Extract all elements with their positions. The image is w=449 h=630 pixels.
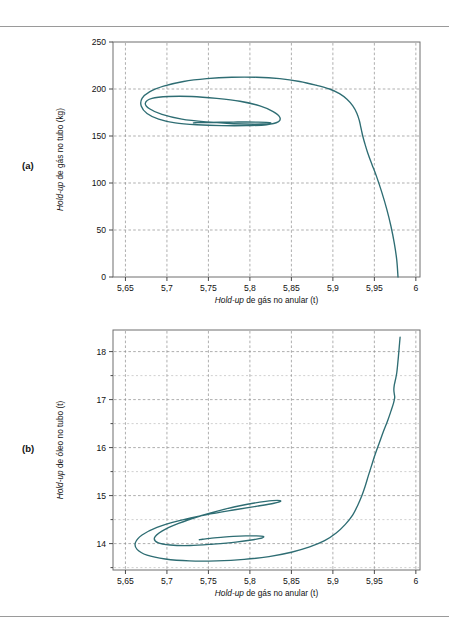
data-series-line (135, 337, 400, 561)
y-axis-title-italic: Hold-up (55, 470, 65, 499)
x-tick-label: 5,65 (117, 283, 134, 293)
y-tick-label: 14 (96, 539, 106, 549)
y-tick-label: 150 (92, 131, 107, 141)
x-tick-label: 5,85 (283, 576, 300, 586)
x-tick-label: 6 (413, 576, 418, 586)
data-series-line (141, 77, 398, 277)
y-tick-label: 50 (96, 225, 106, 235)
y-tick-label: 250 (92, 37, 107, 47)
x-tick-label: 5,95 (366, 283, 383, 293)
bottom-divider-rule (0, 616, 449, 617)
y-tick-label: 18 (96, 347, 106, 357)
x-tick-label: 5,9 (327, 576, 339, 586)
y-axis-title: Hold-up de óleo no tubo (t) (55, 400, 65, 499)
plot-frame (113, 330, 420, 570)
y-tick-label: 15 (96, 491, 106, 501)
x-tick-label: 5,65 (117, 576, 134, 586)
y-axis-title-italic: Hold-up (55, 181, 65, 210)
x-tick-label: 5,7 (161, 283, 173, 293)
x-axis-title-italic: Hold-up (215, 588, 244, 598)
top-divider-rule (0, 26, 449, 27)
x-tick-label: 5,75 (200, 283, 217, 293)
y-tick-label: 16 (96, 443, 106, 453)
x-tick-label: 5,9 (327, 283, 339, 293)
y-tick-label: 17 (96, 395, 106, 405)
x-tick-label: 5,95 (366, 576, 383, 586)
x-axis-title-rest: de gás no anular (t) (244, 295, 318, 305)
x-axis-title-rest: de gás no anular (t) (244, 588, 318, 598)
x-axis-title: Hold-up de gás no anular (t) (215, 295, 319, 305)
x-tick-label: 5,8 (244, 576, 256, 586)
x-tick-label: 5,75 (200, 576, 217, 586)
x-tick-label: 5,85 (283, 283, 300, 293)
chart-panel-b: 14151617185,655,75,755,85,855,95,956Hold… (0, 318, 449, 613)
y-tick-label: 0 (101, 272, 106, 282)
x-tick-label: 5,8 (244, 283, 256, 293)
x-axis-title: Hold-up de gás no anular (t) (215, 588, 319, 598)
chart-panel-a: 0501001502002505,655,75,755,85,855,95,95… (0, 30, 449, 315)
x-tick-label: 6 (413, 283, 418, 293)
figure-page: (a) (b) 0501001502002505,655,75,755,85,8… (0, 0, 449, 630)
x-tick-label: 5,7 (161, 576, 173, 586)
y-tick-label: 200 (92, 84, 107, 94)
chart-b-svg: 14151617185,655,75,755,85,855,95,956Hold… (0, 318, 449, 613)
y-axis-title: Hold-up de gás no tubo (kg) (55, 108, 65, 211)
chart-a-svg: 0501001502002505,655,75,755,85,855,95,95… (0, 30, 449, 315)
y-axis-title-rest: de óleo no tubo (t) (55, 400, 65, 470)
y-tick-label: 100 (92, 178, 107, 188)
x-axis-title-italic: Hold-up (215, 295, 244, 305)
y-axis-title-rest: de gás no tubo (kg) (55, 108, 65, 182)
